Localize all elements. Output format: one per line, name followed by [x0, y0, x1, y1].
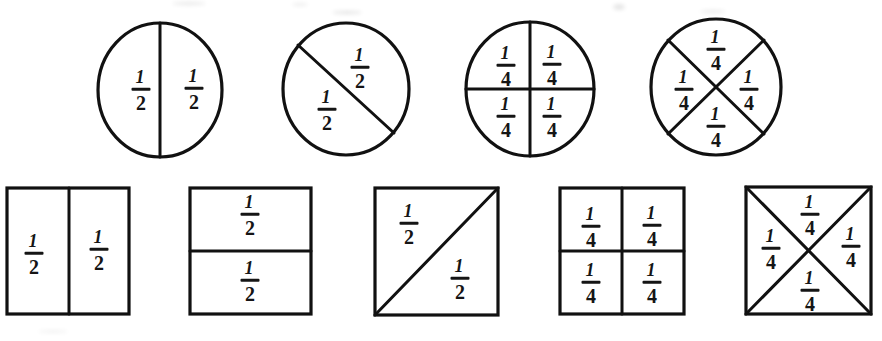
numerator: 1 [450, 257, 469, 276]
numerator: 1 [581, 205, 600, 224]
fraction-bar [241, 279, 260, 282]
denominator: 2 [400, 226, 419, 246]
numerator: 1 [800, 193, 819, 212]
numerator: 1 [841, 225, 860, 244]
numerator: 1 [542, 43, 561, 62]
numerator: 1 [739, 68, 758, 87]
fraction-bar [643, 224, 662, 227]
numerator: 1 [350, 46, 369, 65]
fraction-label-fourth: 1 4 [497, 44, 516, 89]
denominator: 4 [675, 92, 694, 112]
denominator: 2 [318, 112, 337, 132]
fraction-label-fourth: 1 4 [543, 43, 562, 88]
numerator: 1 [761, 227, 780, 246]
fraction-bar [543, 63, 562, 66]
numerator: 1 [317, 88, 336, 107]
fraction-bar [497, 115, 516, 118]
fraction-bar [675, 88, 694, 91]
fraction-label-fourth: 1 4 [582, 205, 601, 250]
fraction-bar [497, 64, 516, 67]
fraction-bar [185, 87, 204, 90]
fraction-label-fourth: 1 4 [675, 68, 694, 113]
numerator: 1 [706, 105, 725, 124]
circle-vertical-halves [96, 21, 224, 159]
fraction-figure-canvas: 1 2 1 2 1 2 1 2 1 4 1 4 1 4 [0, 0, 882, 341]
scan-artifact [332, 11, 362, 14]
fraction-label-fourth: 1 4 [762, 227, 781, 272]
numerator: 1 [706, 28, 725, 47]
fraction-label-half: 1 2 [25, 232, 44, 277]
numerator: 1 [800, 269, 819, 288]
denominator: 2 [25, 256, 44, 276]
fraction-label-fourth: 1 4 [543, 95, 562, 140]
fraction-label-fourth: 1 4 [801, 193, 820, 238]
denominator: 4 [543, 119, 562, 139]
fraction-bar [740, 88, 759, 91]
fraction-label-fourth: 1 4 [582, 261, 601, 306]
denominator: 2 [241, 217, 260, 237]
fraction-bar [318, 108, 337, 111]
fraction-label-fourth: 1 4 [707, 105, 726, 150]
denominator: 4 [762, 251, 781, 271]
denominator: 2 [185, 91, 204, 111]
numerator: 1 [542, 95, 561, 114]
fraction-bar [842, 245, 861, 248]
denominator: 2 [351, 70, 370, 90]
fraction-bar [25, 252, 44, 255]
fraction-label-half: 1 2 [90, 228, 109, 273]
denominator: 4 [543, 67, 562, 87]
fraction-bar [543, 115, 562, 118]
numerator: 1 [581, 261, 600, 280]
denominator: 4 [842, 249, 861, 269]
denominator: 4 [582, 285, 601, 305]
fraction-label-half: 1 2 [400, 202, 419, 247]
fraction-label-fourth: 1 4 [801, 269, 820, 314]
numerator: 1 [24, 232, 43, 251]
denominator: 2 [241, 283, 260, 303]
fraction-label-half: 1 2 [241, 259, 260, 304]
denominator: 4 [740, 92, 759, 112]
fraction-bar [707, 125, 726, 128]
numerator: 1 [240, 259, 259, 278]
fraction-bar [351, 66, 370, 69]
numerator: 1 [642, 261, 661, 280]
denominator: 4 [497, 68, 516, 88]
fraction-bar [241, 213, 260, 216]
denominator: 4 [582, 229, 601, 249]
denominator: 4 [497, 119, 516, 139]
denominator: 4 [801, 293, 820, 313]
fraction-label-half: 1 2 [318, 88, 337, 133]
denominator: 4 [643, 285, 662, 305]
fraction-bar [643, 281, 662, 284]
fraction-bar [762, 247, 781, 250]
square-cross-fourths [558, 186, 686, 316]
denominator: 2 [451, 281, 470, 301]
fraction-label-half: 1 2 [185, 67, 204, 112]
fraction-label-half: 1 2 [132, 68, 151, 113]
numerator: 1 [674, 68, 693, 87]
denominator: 4 [707, 52, 726, 72]
denominator: 4 [643, 228, 662, 248]
scan-artifact [613, 4, 625, 10]
diagonal-divider [375, 188, 498, 315]
denominator: 2 [132, 92, 151, 112]
denominator: 4 [801, 217, 820, 237]
fraction-label-half: 1 2 [241, 193, 260, 238]
numerator: 1 [131, 68, 150, 87]
numerator: 1 [399, 202, 418, 221]
numerator: 1 [89, 228, 108, 247]
fraction-bar [451, 277, 470, 280]
fraction-label-fourth: 1 4 [707, 28, 726, 73]
fraction-bar [582, 281, 601, 284]
denominator: 2 [90, 252, 109, 272]
fraction-label-fourth: 1 4 [643, 261, 662, 306]
fraction-label-fourth: 1 4 [497, 95, 516, 140]
square-diagonal-halves [373, 186, 500, 317]
circle-diagonal-halves [281, 21, 411, 157]
numerator: 1 [496, 95, 515, 114]
fraction-bar [801, 289, 820, 292]
numerator: 1 [184, 67, 203, 86]
scan-artifact [38, 330, 68, 333]
numerator: 1 [642, 204, 661, 223]
fraction-bar [801, 213, 820, 216]
